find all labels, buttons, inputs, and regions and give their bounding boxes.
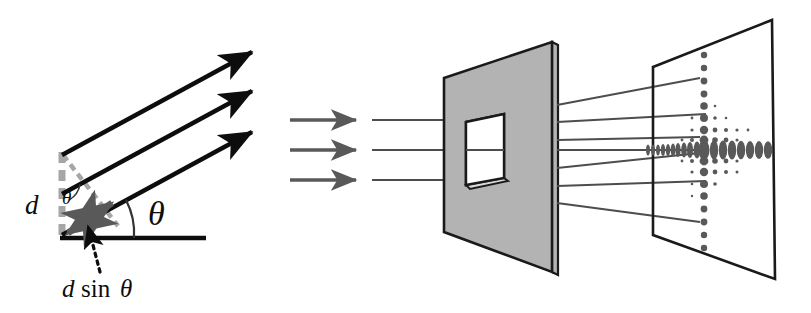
pattern-dot-off-axis xyxy=(712,158,718,164)
pattern-dot-central-column xyxy=(700,114,708,122)
pattern-dot-off-axis xyxy=(736,171,739,174)
angle-arc-large xyxy=(126,200,134,238)
pattern-dot-off-axis xyxy=(690,138,694,142)
pattern-dot-central-row xyxy=(719,141,727,160)
pattern-dot-off-axis xyxy=(691,195,693,197)
figure-canvas: d θ θ d sin θ xyxy=(0,0,811,313)
pattern-dot-central-row xyxy=(687,142,693,158)
pattern-dot-central-column xyxy=(700,192,708,200)
pattern-dot-central-column xyxy=(701,232,707,238)
pattern-dot-central-column xyxy=(700,126,708,134)
pattern-dot-off-axis xyxy=(735,138,738,141)
pattern-dot-central-row xyxy=(764,141,772,159)
pattern-dot-off-axis xyxy=(681,160,684,163)
pattern-dot-central-row xyxy=(671,144,676,157)
pattern-dot-off-axis xyxy=(713,182,717,186)
pattern-dot-central-row xyxy=(710,141,718,160)
label-path-difference: d sin θ xyxy=(62,275,132,302)
pattern-dot-central-column xyxy=(701,52,707,58)
pattern-dot-off-axis xyxy=(735,159,738,162)
pattern-dot-central-column xyxy=(701,245,707,251)
pattern-dot-central-column xyxy=(700,180,708,188)
pattern-dot-central-row xyxy=(666,144,670,156)
pattern-dot-central-row xyxy=(746,141,754,159)
pattern-dot-central-column xyxy=(701,91,708,98)
label-path-difference-sin: sin xyxy=(81,275,111,302)
pattern-dot-off-axis xyxy=(725,117,728,120)
pattern-dot-central-row xyxy=(661,144,665,156)
path-difference-leader xyxy=(88,226,100,272)
label-grating-spacing: d xyxy=(25,190,39,220)
pattern-dot-central-column xyxy=(700,168,708,176)
pattern-dot-central-column xyxy=(701,65,707,71)
pattern-dot-central-column xyxy=(700,136,709,145)
pattern-dot-central-row xyxy=(681,143,687,158)
label-path-difference-d: d xyxy=(62,275,75,302)
pattern-dot-central-column xyxy=(701,219,708,226)
pattern-dot-off-axis xyxy=(724,159,729,164)
pattern-dot-off-axis xyxy=(690,128,693,131)
pattern-dot-central-column xyxy=(700,157,709,166)
detection-screen-group xyxy=(557,20,775,279)
pattern-dot-central-row xyxy=(728,141,736,160)
pattern-dot-central-row xyxy=(737,141,745,159)
pattern-dot-off-axis xyxy=(690,159,694,163)
aperture-plate-group xyxy=(290,42,558,275)
pattern-dot-central-row xyxy=(755,141,763,159)
label-path-difference-theta: θ xyxy=(120,275,132,302)
pattern-dot-off-axis xyxy=(712,137,718,143)
diffraction-figure: d θ θ d sin θ xyxy=(0,0,811,313)
pattern-dot-off-axis xyxy=(691,183,694,186)
pattern-dot-central-row xyxy=(651,145,655,156)
pattern-dot-off-axis xyxy=(724,128,728,132)
pattern-dot-off-axis xyxy=(713,170,718,175)
pattern-dot-off-axis xyxy=(691,117,694,120)
pattern-dot-central-row xyxy=(656,145,660,156)
pattern-dot-central-column xyxy=(701,206,708,213)
pattern-dot-central-column xyxy=(700,102,708,110)
pattern-dot-off-axis xyxy=(714,105,717,108)
outgoing-ray-top xyxy=(62,52,252,155)
label-angle-small: θ xyxy=(62,187,71,208)
pattern-dot-central-column xyxy=(701,78,708,85)
pattern-dot-off-axis xyxy=(724,170,728,174)
path-difference-arrow xyxy=(68,203,112,233)
grating-path-difference-diagram: d θ θ d sin θ xyxy=(25,52,252,302)
label-angle-large: θ xyxy=(148,195,165,232)
outgoing-ray-middle xyxy=(62,91,252,194)
pattern-dot-central-row xyxy=(646,145,650,156)
pattern-dot-off-axis xyxy=(690,170,693,173)
pattern-dot-off-axis xyxy=(713,128,718,133)
pattern-dot-off-axis xyxy=(724,138,729,143)
pattern-dot-off-axis xyxy=(747,129,750,132)
pattern-dot-off-axis xyxy=(681,139,684,142)
pattern-dot-off-axis xyxy=(735,128,738,131)
pattern-dot-central-row xyxy=(675,143,680,157)
pattern-dot-off-axis xyxy=(713,116,717,120)
